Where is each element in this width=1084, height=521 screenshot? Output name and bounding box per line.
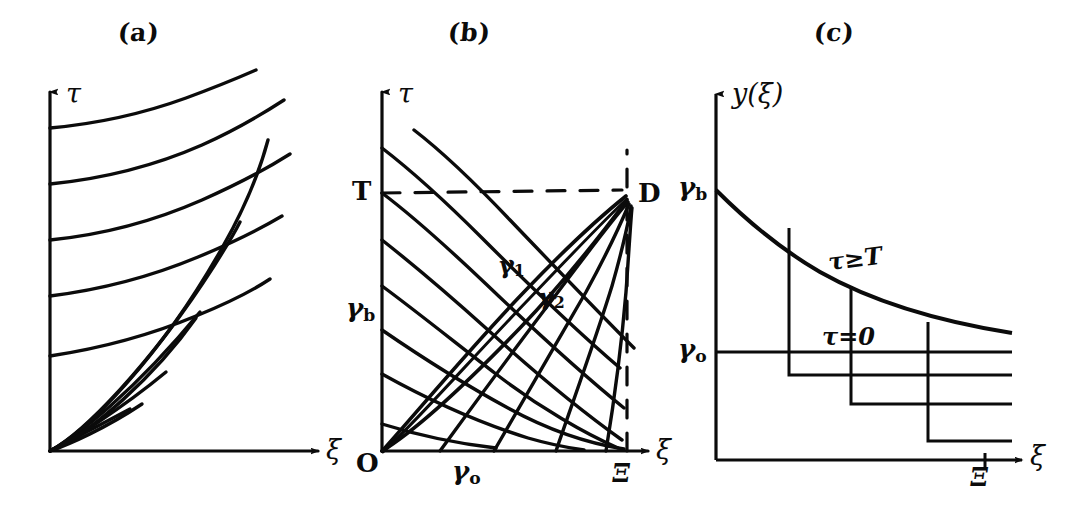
panel-a-title: (a) <box>117 18 161 47</box>
panel-a-characteristic <box>50 154 290 240</box>
xi-capital-glyph: Ξ <box>968 462 991 492</box>
panel-a-ray <box>50 140 268 451</box>
panel-a-characteristic <box>50 100 284 184</box>
panel-b-title: (b) <box>447 18 492 47</box>
panel-c-step <box>851 286 1012 404</box>
xi-glyph: ξ <box>758 78 773 109</box>
gamma-glyph: γ <box>346 293 363 323</box>
gamma-glyph: γ <box>678 172 695 202</box>
subscript-o: o <box>695 346 706 366</box>
panel-a-ray <box>50 222 240 451</box>
subscript-b: b <box>363 305 375 325</box>
panel-c-curve-label-tau-eq-0: τ=0 <box>822 322 875 351</box>
panel-b-gamma-fan <box>494 204 629 451</box>
xi-capital-glyph: Ξ <box>610 458 633 488</box>
panel-b-point-D: D <box>638 178 661 208</box>
y-of-xi-head: y( <box>732 78 758 109</box>
panel-a-x-axis-label: ξ <box>326 434 341 465</box>
figure-root: (a) (b) (c) τ ξ τ ξ T γb γo Ξ D O γ1 γ2 … <box>0 0 1084 521</box>
panel-a-plot <box>50 70 318 451</box>
panel-b-dashed-T-level <box>382 190 622 193</box>
panel-b-curve-gamma-1: γ1 <box>498 250 525 280</box>
gamma-glyph: γ <box>452 456 469 486</box>
subscript-o: o <box>469 468 480 488</box>
panel-b-xtick-gamma-o: γo <box>452 456 481 488</box>
panel-c-x-axis-label: ξ <box>1030 440 1045 471</box>
panel-b-x-axis-label: ξ <box>656 434 671 465</box>
panel-b-y-axis-label: τ <box>398 78 413 109</box>
figure-canvas <box>0 0 1084 521</box>
panel-b-curve-gamma-2: γ2 <box>538 282 565 312</box>
panel-c-plot <box>716 94 1022 467</box>
panel-c-title: (c) <box>813 18 856 47</box>
panel-c-xtick-Xi: Ξ <box>970 462 988 492</box>
panel-b-gamma-1-companion <box>383 199 627 452</box>
panel-b-xtick-Xi: Ξ <box>612 458 630 488</box>
panel-a-ray <box>50 312 200 451</box>
panel-b-origin-O: O <box>356 448 379 478</box>
subscript-b: b <box>695 184 707 204</box>
gamma-glyph: γ <box>536 281 556 312</box>
panel-b-tick-gamma-b: γb <box>346 293 375 325</box>
gamma-glyph: γ <box>678 334 695 364</box>
panel-a-characteristic <box>50 216 282 296</box>
gamma-glyph: γ <box>496 249 516 280</box>
panel-c-tick-gamma-o: γo <box>678 334 707 366</box>
panel-c-y-axis-label: y(ξ) <box>732 78 783 109</box>
panel-c-tick-gamma-b: γb <box>678 172 707 204</box>
panel-c-step <box>928 322 1012 441</box>
panel-b-tick-T: T <box>352 176 371 206</box>
panel-a-y-axis-label: τ <box>66 78 81 109</box>
y-of-xi-tail: ) <box>773 78 784 109</box>
